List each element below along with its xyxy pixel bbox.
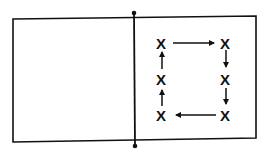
marker-top-left: X [156,35,166,52]
marker-mid-right: X [220,71,230,88]
marker-top-right: X [220,35,230,52]
net-post-bottom-icon [133,144,138,149]
court-diagram: X X X X X X [0,0,266,158]
net-post-top-icon [132,11,137,16]
center-line [134,13,135,146]
marker-mid-left: X [156,71,166,88]
marker-bottom-left: X [156,107,166,124]
marker-bottom-right: X [220,107,230,124]
